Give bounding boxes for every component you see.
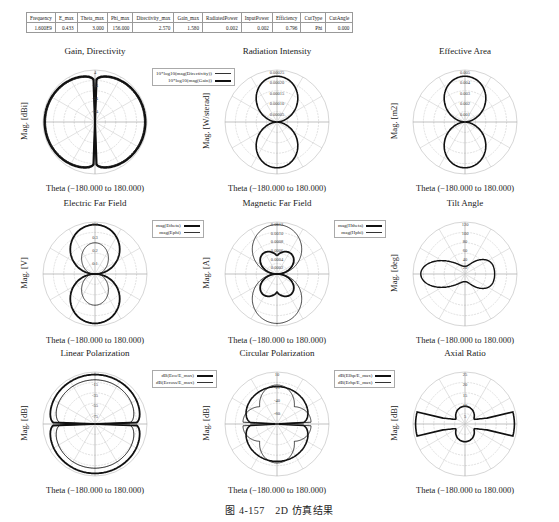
svg-text:40: 40 bbox=[463, 257, 468, 262]
legend-line-icon bbox=[366, 225, 382, 227]
table-cell: 156.000 bbox=[107, 23, 132, 33]
x-axis-label: Theta (−180.000 to 180.000) bbox=[372, 335, 558, 345]
svg-text:10: 10 bbox=[463, 403, 468, 408]
table-cell: Phi bbox=[301, 23, 326, 33]
legend-line-icon bbox=[197, 375, 213, 377]
x-axis-label: Theta (−180.000 to 180.000) bbox=[184, 183, 370, 193]
svg-text:0.00010: 0.00010 bbox=[270, 101, 285, 106]
svg-text:120: 120 bbox=[462, 222, 470, 227]
legend-label: dB(Ecross/E_max) bbox=[156, 379, 194, 386]
svg-text:0.0002: 0.0002 bbox=[271, 265, 283, 270]
svg-text:-24: -24 bbox=[92, 96, 99, 101]
polar-plot: 0.0050.0040.0030.0020.001 bbox=[372, 56, 558, 186]
legend-label: 10*log10(mag(Gain)) bbox=[168, 77, 212, 84]
svg-text:80: 80 bbox=[463, 239, 468, 244]
chart-title: Linear Polarization bbox=[2, 348, 188, 358]
legend-label: mag(Ephi) bbox=[159, 229, 180, 236]
svg-text:0.00005: 0.00005 bbox=[270, 112, 285, 117]
x-axis-label: Theta (−180.000 to 180.000) bbox=[184, 335, 370, 345]
table-cell: 0.002 bbox=[241, 23, 272, 33]
svg-text:-15: -15 bbox=[92, 382, 99, 387]
table-header: Frequency bbox=[27, 13, 56, 23]
polar-chart: Axial Ratio252015105Mag. [dB]Theta (−180… bbox=[372, 346, 558, 498]
legend-label: dB(Eco/E_max) bbox=[162, 372, 195, 379]
svg-text:5: 5 bbox=[464, 414, 467, 419]
table-cell: 0.433 bbox=[55, 23, 77, 33]
table-header: Theta_max bbox=[77, 13, 107, 23]
table-cell: 0.796 bbox=[272, 23, 301, 33]
legend-line-icon bbox=[184, 232, 200, 233]
svg-text:-35: -35 bbox=[92, 393, 99, 398]
svg-text:0.004: 0.004 bbox=[460, 80, 471, 85]
svg-text:0.2: 0.2 bbox=[92, 248, 98, 253]
table-cell: 0.000 bbox=[326, 23, 353, 33]
y-axis-label: Mag. [m2] bbox=[389, 91, 399, 151]
svg-text:20: 20 bbox=[463, 382, 468, 387]
svg-text:0.005: 0.005 bbox=[460, 70, 471, 75]
svg-text:0.0010: 0.0010 bbox=[271, 231, 284, 236]
x-axis-label: Theta (−180.000 to 180.000) bbox=[2, 183, 188, 193]
legend-line-icon bbox=[215, 73, 231, 74]
table-cell: 0.002 bbox=[203, 23, 242, 33]
svg-text:10: 10 bbox=[275, 372, 280, 377]
polar-plot: 12010080604020 bbox=[372, 208, 558, 338]
legend-line-icon bbox=[375, 375, 391, 377]
chart-title: Tilt Angle bbox=[372, 198, 558, 208]
chart-title: Radiation Intensity bbox=[184, 46, 370, 56]
table-header: Efficiency bbox=[272, 13, 301, 23]
svg-text:-40: -40 bbox=[274, 398, 281, 403]
polar-chart: Tilt Angle12010080604020Mag. [deg]Theta … bbox=[372, 196, 558, 348]
chart-title: Axial Ratio bbox=[372, 348, 558, 358]
legend-line-icon bbox=[366, 232, 382, 233]
legend-line-icon bbox=[375, 382, 391, 383]
table-header: CutAngle bbox=[326, 13, 353, 23]
chart-legend: dB(Elhp/E_max)dB(Erhp/E_max) bbox=[334, 370, 395, 388]
legend-line-icon bbox=[184, 225, 200, 227]
chart-legend: 10*log10(mag(Directivity))10*log10(mag(G… bbox=[152, 68, 235, 86]
table-header: CutType bbox=[301, 13, 326, 23]
y-axis-label: Mag. [V] bbox=[19, 243, 29, 303]
legend-label: mag(Hphi) bbox=[341, 229, 363, 236]
x-axis-label: Theta (−180.000 to 180.000) bbox=[184, 485, 370, 495]
svg-text:0.1: 0.1 bbox=[92, 261, 98, 266]
table-header: Gain_max bbox=[174, 13, 203, 23]
svg-text:0.003: 0.003 bbox=[460, 91, 471, 96]
polar-chart: Circular Polarization10-21-40-60Mag. [dB… bbox=[184, 346, 370, 498]
svg-text:0.0012: 0.0012 bbox=[271, 222, 283, 227]
chart-legend: mag(Htheta)mag(Hphi) bbox=[334, 220, 386, 238]
figure-caption: 图 4-157 2D 仿真结果 bbox=[0, 502, 559, 517]
y-axis-label: Mag. [dB] bbox=[201, 393, 211, 453]
svg-text:-21: -21 bbox=[274, 385, 280, 390]
table-header: Directivity_max bbox=[133, 13, 174, 23]
legend-line-icon bbox=[215, 80, 231, 82]
chart-title: Effective Area bbox=[372, 46, 558, 56]
svg-text:-14: -14 bbox=[92, 83, 99, 88]
legend-label: mag(Htheta) bbox=[338, 222, 363, 229]
table-cell: 1.600E9 bbox=[27, 23, 56, 33]
chart-title: Gain, Directivity bbox=[2, 46, 188, 56]
polar-chart: Gain, Directivity4-14-24-34Mag. [dBi]The… bbox=[2, 44, 188, 196]
x-axis-label: Theta (−180.000 to 180.000) bbox=[2, 485, 188, 495]
svg-text:0.00015: 0.00015 bbox=[270, 91, 285, 96]
chart-title: Circular Polarization bbox=[184, 348, 370, 358]
legend-label: dB(Erhp/E_max) bbox=[338, 379, 372, 386]
svg-text:15: 15 bbox=[463, 393, 468, 398]
svg-text:0.4: 0.4 bbox=[92, 222, 98, 227]
svg-text:-55: -55 bbox=[92, 403, 99, 408]
svg-text:0.0006: 0.0006 bbox=[271, 248, 284, 253]
y-axis-label: Mag. [A] bbox=[201, 243, 211, 303]
y-axis-label: Mag. [dB] bbox=[389, 393, 399, 453]
svg-text:0.00020: 0.00020 bbox=[270, 80, 285, 85]
svg-text:25: 25 bbox=[463, 372, 468, 377]
chart-legend: mag(Etheta)mag(Ephi) bbox=[152, 220, 204, 238]
polar-chart: Radiation Intensity0.000250.000200.00015… bbox=[184, 44, 370, 196]
svg-text:0.001: 0.001 bbox=[460, 112, 470, 117]
svg-text:0.00025: 0.00025 bbox=[270, 70, 285, 75]
svg-text:100: 100 bbox=[462, 231, 470, 236]
table-header: InputPower bbox=[241, 13, 272, 23]
table-header: E_max bbox=[55, 13, 77, 23]
svg-text:-75: -75 bbox=[92, 414, 99, 419]
svg-text:0.0004: 0.0004 bbox=[271, 257, 284, 262]
table-cell: 3.000 bbox=[77, 23, 107, 33]
svg-text:-34: -34 bbox=[92, 109, 99, 114]
